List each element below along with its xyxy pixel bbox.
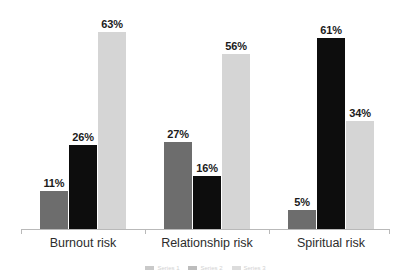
bar-value-label: 11% bbox=[34, 177, 74, 189]
legend-swatch-icon bbox=[188, 266, 197, 270]
chart-legend: Series 1Series 2Series 3 bbox=[0, 265, 411, 272]
legend-label: Series 1 bbox=[157, 265, 179, 271]
bar-value-label: 34% bbox=[340, 107, 380, 119]
bar-rect[interactable] bbox=[98, 32, 126, 229]
bar-rect[interactable] bbox=[164, 142, 192, 229]
bar-rect[interactable] bbox=[222, 54, 250, 229]
legend-item[interactable]: Series 2 bbox=[188, 265, 222, 271]
bar-63[interactable]: 63% bbox=[98, 0, 126, 229]
bar-rect[interactable] bbox=[346, 121, 374, 229]
bar-value-label: 61% bbox=[311, 24, 351, 36]
x-axis-tick bbox=[389, 229, 390, 234]
legend-label: Series 3 bbox=[244, 265, 266, 271]
bar-rect[interactable] bbox=[317, 38, 345, 229]
x-axis-tick bbox=[21, 229, 22, 234]
bar-value-label: 16% bbox=[187, 162, 227, 174]
x-axis-tick bbox=[269, 229, 270, 234]
bar-11[interactable]: 11% bbox=[40, 0, 68, 229]
x-axis-tick bbox=[145, 229, 146, 234]
legend-label: Series 2 bbox=[200, 265, 222, 271]
bar-value-label: 5% bbox=[282, 196, 322, 208]
bar-16[interactable]: 16% bbox=[193, 0, 221, 229]
bar-rect[interactable] bbox=[40, 191, 68, 229]
bar-value-label: 56% bbox=[216, 40, 256, 52]
legend-item[interactable]: Series 1 bbox=[145, 265, 179, 271]
bar-rect[interactable] bbox=[288, 210, 316, 229]
legend-item[interactable]: Series 3 bbox=[232, 265, 266, 271]
bar-26[interactable]: 26% bbox=[69, 0, 97, 229]
plot-area: 11%26%63% 27%16%56% 5%61%34% bbox=[0, 0, 411, 229]
bar-value-label: 27% bbox=[158, 128, 198, 140]
bar-rect[interactable] bbox=[193, 176, 221, 229]
bar-56[interactable]: 56% bbox=[222, 0, 250, 229]
category-label-spiritual-risk: Spiritual risk bbox=[261, 236, 401, 250]
legend-swatch-icon bbox=[145, 266, 154, 270]
bar-rect[interactable] bbox=[69, 145, 97, 229]
legend-swatch-icon bbox=[232, 266, 241, 270]
bar-34[interactable]: 34% bbox=[346, 0, 374, 229]
x-axis-line bbox=[21, 229, 389, 230]
bar-value-label: 63% bbox=[92, 18, 132, 30]
category-label-relationship-risk: Relationship risk bbox=[137, 236, 277, 250]
bar-value-label: 26% bbox=[63, 131, 103, 143]
bar-27[interactable]: 27% bbox=[164, 0, 192, 229]
category-label-burnout-risk: Burnout risk bbox=[13, 236, 153, 250]
bar-chart: 11%26%63% 27%16%56% 5%61%34% Burnout ris… bbox=[0, 0, 411, 272]
